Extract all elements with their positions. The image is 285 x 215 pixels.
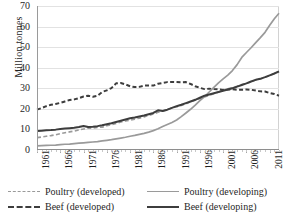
y-axis-line [37,6,38,150]
series-line-beef-developed [37,82,279,110]
x-minor-tick [130,150,131,152]
plot-area [37,6,279,150]
x-minor-tick [79,150,80,152]
legend-swatch-poultry-developing [147,191,179,192]
x-tick-2006: 2006 [250,150,260,169]
x-minor-tick [186,150,187,152]
x-minor-tick [135,150,136,152]
legend-item-beef-developing[interactable]: Beef (developing) [147,201,280,212]
x-minor-tick [251,150,252,152]
x-minor-tick [214,150,215,152]
x-minor-tick [209,150,210,152]
chart-container: Million tonnes 010203040506070 196119661… [0,0,285,215]
x-minor-tick [107,150,108,152]
x-minor-tick [98,150,99,152]
x-tick-1991: 1991 [181,150,191,169]
legend-item-beef-developed[interactable]: Beef (developed) [8,201,141,212]
x-minor-tick [111,150,112,152]
series-lines [37,6,279,150]
y-tick-50: 50 [20,42,30,52]
legend-label-poultry-developed: Poultry (developed) [45,186,125,197]
x-minor-tick [177,150,178,152]
y-tick-0: 0 [25,145,30,155]
x-minor-tick [125,150,126,152]
x-minor-tick [158,150,159,152]
x-tick-2001: 2001 [227,150,237,169]
x-minor-tick [256,150,257,152]
legend-swatch-beef-developed [8,206,40,208]
x-minor-tick [56,150,57,152]
legend-label-beef-developing: Beef (developing) [184,201,256,212]
x-minor-tick [84,150,85,152]
legend-swatch-beef-developing [147,206,179,208]
x-tick-1976: 1976 [111,150,121,169]
x-minor-tick [139,150,140,152]
y-tick-10: 10 [20,124,30,134]
y-axis-tick-labels: 010203040506070 [0,6,34,150]
x-minor-tick [46,150,47,152]
x-minor-tick [121,150,122,152]
x-minor-tick [228,150,229,152]
y-tick-40: 40 [20,63,30,73]
x-minor-tick [163,150,164,152]
x-minor-tick [181,150,182,152]
x-tick-1981: 1981 [134,150,144,169]
x-minor-tick [223,150,224,152]
x-minor-tick [153,150,154,152]
x-tick-1986: 1986 [157,150,167,169]
x-minor-tick [149,150,150,152]
x-tick-2011: 2011 [274,150,284,169]
x-minor-tick [205,150,206,152]
chart-legend: Poultry (developed)Poultry (developing)B… [8,184,280,214]
x-axis-tick-labels: 1961196619711976198119861991199620012006… [37,150,279,184]
x-minor-tick [246,150,247,152]
x-minor-tick [242,150,243,152]
x-tick-1971: 1971 [88,150,98,169]
x-minor-tick [265,150,266,152]
legend-swatch-poultry-developed [8,191,40,192]
x-minor-tick [70,150,71,152]
x-minor-tick [74,150,75,152]
x-minor-tick [167,150,168,152]
x-minor-tick [60,150,61,152]
x-minor-tick [37,150,38,152]
x-minor-tick [88,150,89,152]
x-minor-tick [279,150,280,152]
x-minor-tick [65,150,66,152]
x-minor-tick [270,150,271,152]
y-tick-60: 60 [20,22,30,32]
y-tick-70: 70 [20,1,30,11]
x-minor-tick [93,150,94,152]
x-minor-tick [102,150,103,152]
x-minor-tick [237,150,238,152]
x-minor-tick [116,150,117,152]
x-tick-1966: 1966 [64,150,74,169]
x-tick-1996: 1996 [204,150,214,169]
y-tick-30: 30 [20,83,30,93]
legend-label-beef-developed: Beef (developed) [45,201,114,212]
x-minor-tick [219,150,220,152]
x-minor-tick [51,150,52,152]
x-minor-tick [274,150,275,152]
x-minor-tick [42,150,43,152]
x-minor-tick [260,150,261,152]
x-minor-tick [232,150,233,152]
legend-item-poultry-developing[interactable]: Poultry (developing) [147,186,280,197]
x-minor-tick [195,150,196,152]
series-line-beef-developing [37,71,279,131]
x-minor-tick [172,150,173,152]
legend-label-poultry-developing: Poultry (developing) [184,186,267,197]
x-minor-tick [144,150,145,152]
y-tick-20: 20 [20,104,30,114]
legend-item-poultry-developed[interactable]: Poultry (developed) [8,186,141,197]
x-minor-tick [191,150,192,152]
x-tick-1961: 1961 [41,150,51,169]
x-minor-tick [200,150,201,152]
series-line-poultry-developing [37,13,279,146]
